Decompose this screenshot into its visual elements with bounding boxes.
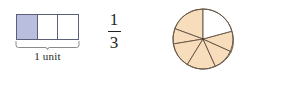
fraction-one-third: 1 3 <box>103 11 125 52</box>
bar-unit-label: 1 unit <box>15 50 80 63</box>
bar-model <box>16 14 79 40</box>
circle-fraction-figure: 1 unit 6 7 <box>145 0 290 99</box>
rectangle-fraction-figure: 1 unit 1 3 <box>0 0 145 99</box>
fraction-numerator: 1 <box>103 11 125 29</box>
fraction-bar <box>108 31 121 32</box>
fraction-denominator: 3 <box>103 34 125 52</box>
bar-cell-empty <box>37 15 58 39</box>
pie-model <box>167 3 239 75</box>
pie-center-dot <box>202 38 204 40</box>
bar-cell-empty <box>57 15 78 39</box>
bar-cell-shaded <box>17 15 37 39</box>
bar-unit-brace <box>15 41 80 50</box>
